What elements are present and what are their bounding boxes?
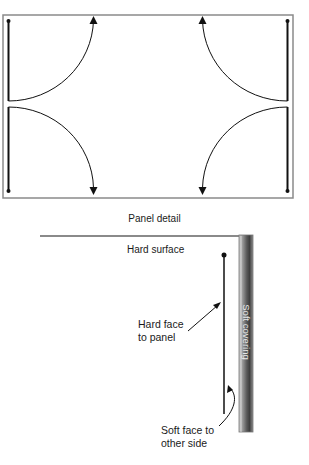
hinge-dot-icon (286, 19, 290, 23)
hard-face-label: Hard face to panel (138, 318, 198, 344)
panel-bottom-right (199, 107, 290, 195)
swing-arc (9, 107, 94, 188)
panel-bottom-left (7, 107, 98, 195)
hard-face-label-line2: to panel (138, 331, 198, 344)
arrow-up-icon (90, 16, 98, 24)
swing-arc (203, 20, 288, 101)
arrow-up-icon (199, 16, 207, 24)
soft-face-label-line1: Soft face to (161, 424, 251, 437)
hard-face-label-line1: Hard face (138, 318, 198, 331)
hinge-dot-icon (7, 189, 11, 193)
arrow-down-icon (199, 187, 207, 195)
arrow-icon (227, 385, 233, 393)
hinge-dot-icon (286, 189, 290, 193)
panel-top-right (199, 16, 290, 101)
soft-face-label: Soft face to other side (161, 424, 251, 450)
panel-pivot-dot-icon (222, 253, 227, 258)
soft-covering-label: Soft covering (240, 304, 253, 359)
figure-caption: Panel detail (0, 212, 309, 225)
arrow-down-icon (90, 187, 98, 195)
hard-surface-label: Hard surface (127, 243, 184, 256)
swing-arc (203, 107, 288, 188)
hinge-dot-icon (7, 19, 11, 23)
panel-top-left (7, 16, 98, 101)
panel-diagram (0, 0, 309, 465)
room-outline (3, 15, 293, 198)
plan-view (3, 15, 293, 198)
soft-face-label-line2: other side (161, 437, 251, 450)
soft-face-leader (219, 388, 235, 426)
swing-arc (9, 20, 94, 101)
